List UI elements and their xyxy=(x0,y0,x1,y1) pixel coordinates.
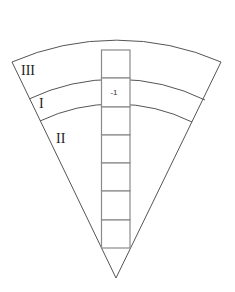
sector-diagram: -1 III I II xyxy=(0,0,235,292)
column-cell-5 xyxy=(102,163,131,191)
column-cell-7 xyxy=(102,220,131,248)
cell-column: -1 xyxy=(102,50,131,248)
region-label-II: II xyxy=(56,131,66,146)
column-cell-4 xyxy=(102,135,131,163)
column-cell-6 xyxy=(102,191,131,220)
cell-2-value: -1 xyxy=(110,88,118,97)
region-label-I: I xyxy=(39,96,44,111)
column-cell-3 xyxy=(102,107,131,135)
column-cell-1 xyxy=(102,50,131,78)
region-label-III: III xyxy=(21,63,35,78)
